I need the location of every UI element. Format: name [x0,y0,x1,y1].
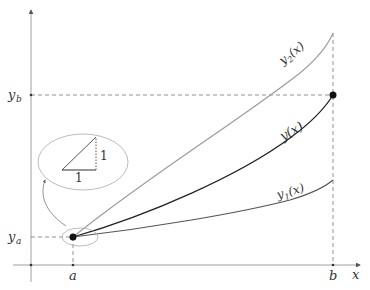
b-tick-dot [332,264,335,267]
yb-tick-dot [30,94,33,97]
y2-curve-label: y 2 (x) [275,39,308,70]
start-point [70,234,77,241]
yb-base: y [7,87,16,102]
y1-curve-label: y 1 (x) [274,181,307,204]
diagram-canvas: 1 1 x a b y b y a y 2 (x) y (x) y 1 (x) [0,0,370,290]
a-tick-label: a [69,268,77,283]
end-point [330,92,337,99]
guide-lines [31,33,333,265]
vertical-leg-label: 1 [100,149,108,163]
slope-hypotenuse [62,137,96,170]
ya-base: y [7,229,16,244]
ya-tick-label: y a [7,229,21,246]
yb-tick-label: y b [7,87,22,104]
ya-sub: a [16,236,21,246]
axes [13,10,360,282]
x-axis-label: x [352,267,360,282]
a-tick-dot [72,264,75,267]
yb-sub: b [16,94,22,104]
b-tick-label: b [329,268,337,283]
inset-ellipse [38,134,128,190]
curve-y [73,95,333,237]
slope-inset: 1 1 [38,134,128,226]
horizontal-leg-label: 1 [75,171,83,185]
origin-dot [30,264,33,267]
y-curve-label: y (x) [276,118,306,144]
